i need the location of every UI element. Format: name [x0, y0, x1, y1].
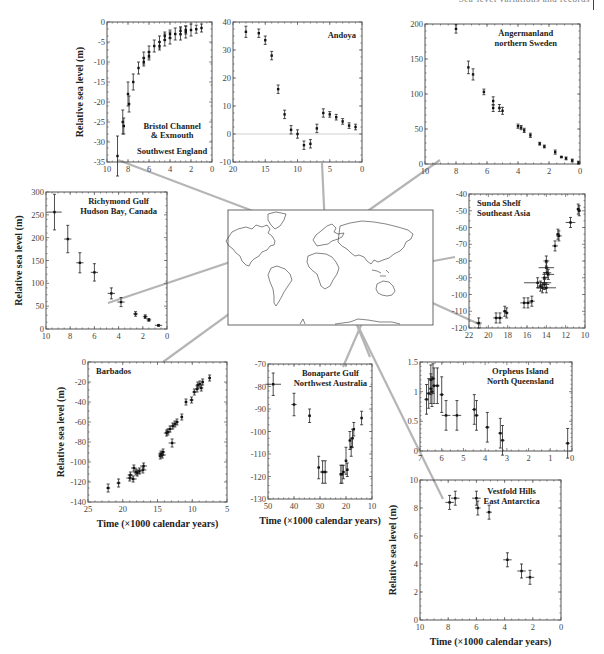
- data-point: [257, 29, 260, 37]
- y-tick-label: 150: [410, 54, 423, 64]
- y-tick-label: -20: [94, 97, 105, 107]
- y-tick-label: -120: [70, 477, 86, 487]
- x-tick-label: 10: [293, 164, 302, 174]
- y-tick-label: 0.5: [407, 416, 418, 426]
- y-tick-label: 2: [414, 587, 418, 597]
- chart-subtitle: East Antarctica: [484, 496, 541, 506]
- x-tick-label: 8: [446, 622, 450, 632]
- data-point: [492, 97, 495, 105]
- data-point: [472, 395, 476, 425]
- data-point: [430, 377, 434, 407]
- y-tick-label: 100: [31, 278, 44, 288]
- y-tick-label: 10: [410, 475, 419, 485]
- data-point: [560, 156, 563, 158]
- y-tick-label: -10: [220, 157, 231, 167]
- data-point: [474, 401, 478, 431]
- x-tick-label: 20: [342, 501, 351, 511]
- data-point: [328, 112, 331, 118]
- x-tick-label: 18: [503, 330, 512, 340]
- chart-bristol: 10864200-5-10-15-20-25-30-35Bristol Chan…: [74, 17, 214, 176]
- y-tick-label: 6: [414, 531, 418, 541]
- x-tick-label: 4: [168, 164, 173, 174]
- chart-bonaparte: 5040302010-70-80-90-100-110-120-130Bonap…: [250, 359, 380, 527]
- data-point: [174, 28, 177, 40]
- y-tick-label: 50: [415, 124, 424, 134]
- data-point: [296, 130, 299, 138]
- x-tick-label: 4: [116, 331, 121, 341]
- data-point: [143, 315, 148, 319]
- y-tick-label: 1: [414, 387, 418, 397]
- y-tick-label: -140: [70, 497, 86, 507]
- y-tick-label: 0: [82, 357, 86, 367]
- x-tick-label: 8: [454, 166, 458, 176]
- x-tick-label: 0: [165, 331, 169, 341]
- y-tick-label: -120: [250, 472, 266, 482]
- x-tick-label: 2: [189, 164, 193, 174]
- world-map: [226, 210, 433, 325]
- data-point: [106, 484, 110, 492]
- x-axis-label: Time (×1000 calendar years): [97, 518, 219, 530]
- y-tick-label: 300: [31, 187, 44, 197]
- plot-frame: [88, 362, 227, 502]
- y-tick-label: -120: [451, 323, 467, 333]
- y-tick-label: -80: [255, 382, 266, 392]
- x-tick-label: 2: [141, 331, 145, 341]
- data-point: [190, 24, 193, 36]
- y-tick-label: -110: [452, 306, 467, 316]
- data-point: [453, 401, 462, 431]
- y-tick-label: -60: [456, 223, 467, 233]
- x-tick-label: 2: [531, 622, 535, 632]
- x-tick-label: 16: [523, 330, 532, 340]
- x-tick-label: 6: [440, 453, 444, 463]
- data-point: [543, 145, 546, 148]
- y-tick-label: -40: [75, 397, 86, 407]
- x-tick-label: 5: [328, 164, 332, 174]
- data-point: [169, 439, 176, 447]
- data-point: [137, 62, 140, 74]
- x-tick-label: 4: [502, 622, 507, 632]
- y-tick-label: -80: [75, 437, 86, 447]
- data-point: [565, 157, 568, 160]
- chart-title-line2: & Exmouth: [151, 130, 194, 140]
- data-point: [322, 109, 325, 117]
- data-point: [309, 140, 312, 148]
- y-tick-label: -70: [456, 239, 467, 249]
- data-point: [577, 161, 580, 164]
- data-point: [341, 119, 344, 125]
- data-point: [442, 401, 451, 431]
- data-point: [308, 409, 311, 423]
- data-point: [529, 133, 532, 137]
- data-point: [146, 318, 151, 321]
- chart-subtitle: northern Sweden: [494, 38, 557, 48]
- x-tick-label: 10: [368, 501, 377, 511]
- data-point: [476, 318, 482, 328]
- y-tick-label: -20: [75, 377, 86, 387]
- chart-subtitle: Southeast Asia: [477, 208, 531, 218]
- data-point: [91, 264, 98, 281]
- data-point: [486, 505, 492, 519]
- y-tick-label: 0: [414, 615, 418, 625]
- data-point: [189, 397, 193, 403]
- data-point: [132, 74, 135, 90]
- y-tick-label: -5: [98, 37, 105, 47]
- data-point: [440, 377, 444, 413]
- chart-subtitle: North Queensland: [487, 376, 554, 386]
- data-point: [566, 217, 576, 227]
- chart-title: Vestfold Hills: [487, 486, 536, 496]
- chart-title: Andoya: [328, 30, 357, 40]
- x-tick-label: 6: [485, 166, 489, 176]
- x-tick-label: 0: [578, 166, 582, 176]
- chart-sunda: 22201816141210-40-50-60-70-80-90-100-110…: [451, 189, 589, 340]
- data-point: [485, 412, 489, 442]
- data-point: [435, 368, 439, 404]
- x-tick-label: 12: [561, 330, 570, 340]
- plot-frame: [233, 22, 362, 162]
- data-point: [277, 85, 280, 93]
- x-axis-label: Time (×1000 calendar years): [430, 636, 552, 648]
- y-tick-label: -10: [94, 57, 105, 67]
- y-tick-label: 50: [36, 301, 45, 311]
- x-tick-label: 14: [542, 330, 551, 340]
- data-point: [116, 136, 119, 176]
- data-point: [116, 479, 120, 487]
- x-tick-label: 6: [147, 164, 151, 174]
